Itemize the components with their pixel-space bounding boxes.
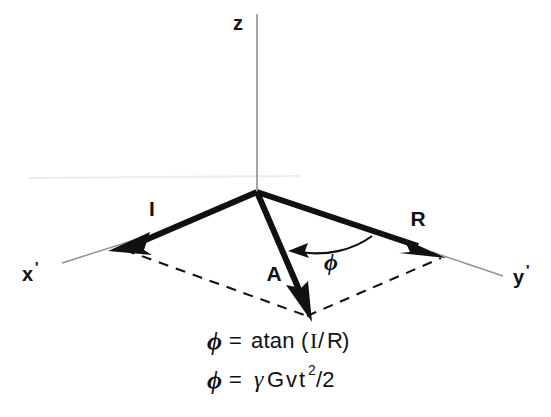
eq1-close-paren: ) xyxy=(342,328,350,353)
z-axis-label: z xyxy=(233,12,243,34)
eq1-slash: / xyxy=(318,328,325,353)
eq1-function: atan ( xyxy=(251,328,309,353)
angle-arc-arrowhead xyxy=(288,243,309,258)
eq1-equals: = xyxy=(229,328,242,353)
eq2-phi-symbol: ϕ xyxy=(207,366,222,395)
vector-diagram-figure: z x ' y ' I R A ϕ ϕ = atan ( I / R ) xyxy=(0,0,551,417)
y-prime-letter: y xyxy=(513,266,525,288)
x-prime-letter: x xyxy=(22,263,33,285)
diagram-canvas: z x ' y ' I R A ϕ ϕ = atan ( I / R ) xyxy=(0,0,551,417)
eq2-exponent: 2 xyxy=(308,362,316,378)
equation-phi-gamma: ϕ = γ G v t 2 /2 xyxy=(207,362,335,395)
eq2-equals: = xyxy=(229,367,242,392)
vector-r-shaft xyxy=(257,192,418,246)
eq1-phi-symbol: ϕ xyxy=(207,327,222,356)
y-prime-tick: ' xyxy=(526,261,530,278)
vector-i xyxy=(108,192,257,255)
eq2-time-symbol: t xyxy=(299,367,305,392)
y-prime-axis-line xyxy=(432,252,503,276)
vector-a xyxy=(257,192,312,322)
eq2-divisor: /2 xyxy=(316,367,335,392)
vector-i-label: I xyxy=(149,197,155,220)
eq2-velocity-symbol: v xyxy=(286,367,297,392)
vector-r-arrowhead xyxy=(399,239,446,258)
equation-phi-atan: ϕ = atan ( I / R ) xyxy=(207,327,350,356)
eq2-gamma-symbol: γ xyxy=(254,366,264,392)
eq2-gradient-symbol: G xyxy=(267,367,284,392)
vector-i-arrowhead xyxy=(108,232,152,255)
angle-phi-label: ϕ xyxy=(324,249,338,275)
vector-r-label: R xyxy=(410,207,425,230)
scan-artifact-line xyxy=(28,176,300,178)
vector-a-label: A xyxy=(266,262,281,285)
eq1-denominator: R xyxy=(327,328,343,353)
eq1-numerator: I xyxy=(310,328,317,353)
x-prime-axis-label: x ' xyxy=(22,258,39,285)
y-prime-axis-label: y ' xyxy=(513,261,530,288)
x-prime-tick: ' xyxy=(35,258,39,275)
